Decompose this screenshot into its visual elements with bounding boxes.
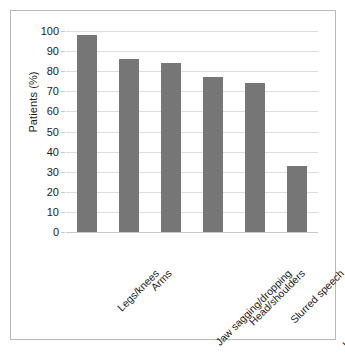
y-axis-tick-label: 60	[47, 105, 59, 117]
y-axis-tickmark	[61, 111, 65, 112]
bar	[161, 63, 181, 232]
bar-chart-figure: Patients (%) 0102030405060708090100Legs/…	[0, 0, 345, 353]
y-axis-tick-label: 90	[47, 45, 59, 57]
gridline	[66, 212, 318, 213]
y-axis-tickmark	[61, 31, 65, 32]
y-axis-tick-label: 100	[41, 25, 59, 37]
gridline	[66, 111, 318, 112]
y-axis-tickmark	[61, 212, 65, 213]
gridline	[66, 232, 318, 233]
bar	[245, 83, 265, 232]
y-axis-tickmark	[61, 91, 65, 92]
bar	[77, 35, 97, 232]
y-axis-tick-label: 0	[53, 226, 59, 238]
y-axis-tickmark	[61, 51, 65, 52]
y-axis-tickmark	[61, 152, 65, 153]
y-axis-tickmark	[61, 172, 65, 173]
gridline	[66, 172, 318, 173]
gridline	[66, 51, 318, 52]
y-axis-tickmark	[61, 192, 65, 193]
y-axis-tickmark	[61, 132, 65, 133]
y-axis-tickmark	[61, 71, 65, 72]
y-axis-tick-label: 80	[47, 65, 59, 77]
gridline	[66, 132, 318, 133]
plot-area: 0102030405060708090100Legs/kneesArmsJaw …	[66, 31, 318, 232]
gridline	[66, 152, 318, 153]
bar	[203, 77, 223, 232]
y-axis-tick-label: 10	[47, 206, 59, 218]
gridline	[66, 192, 318, 193]
y-axis-tick-label: 70	[47, 85, 59, 97]
y-axis-tick-label: 20	[47, 186, 59, 198]
y-axis-tick-label: 40	[47, 146, 59, 158]
y-axis-tick-label: 30	[47, 166, 59, 178]
y-axis-tickmark	[61, 232, 65, 233]
gridline	[66, 71, 318, 72]
gridline	[66, 31, 318, 32]
y-axis-title: Patients (%)	[27, 47, 39, 157]
bar	[119, 59, 139, 232]
gridline	[66, 91, 318, 92]
bar	[287, 166, 307, 232]
y-axis-tick-label: 50	[47, 126, 59, 138]
